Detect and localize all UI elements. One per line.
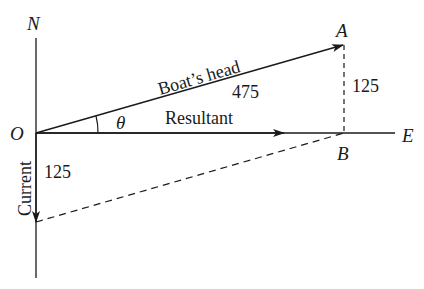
- theta-label: θ: [116, 112, 125, 133]
- resultant-label: Resultant: [165, 108, 233, 128]
- current-magnitude: 125: [44, 162, 71, 182]
- point-b-label: B: [337, 143, 349, 164]
- current-to-b-dashed-line: [36, 133, 344, 222]
- ab-magnitude: 125: [352, 76, 379, 96]
- origin-label: O: [10, 123, 24, 144]
- east-label: E: [401, 125, 414, 146]
- boats-head-magnitude: 475: [232, 82, 259, 102]
- boats-head-label: Boat’s head: [156, 56, 243, 99]
- vector-diagram: N O E A B Boat’s head 475 125 Resultant …: [0, 0, 424, 289]
- theta-arc: [96, 116, 98, 133]
- point-a-label: A: [334, 20, 348, 41]
- current-label: Current: [15, 161, 35, 216]
- north-label: N: [26, 13, 41, 34]
